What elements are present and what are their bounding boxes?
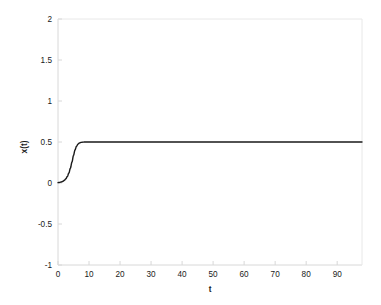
x-tick-label: 0	[56, 270, 61, 279]
y-tick-label: -1	[45, 261, 53, 270]
x-tick-label: 90	[333, 270, 343, 279]
x-tick-label: 20	[115, 270, 125, 279]
y-tick-label: 2	[47, 15, 52, 24]
x-tick-label: 40	[178, 270, 188, 279]
x-axis-label: t	[209, 285, 212, 294]
x-tick-label: 50	[209, 270, 219, 279]
y-tick-label: 1	[47, 97, 52, 106]
plot-canvas: 0102030405060708090-1-0.500.511.52 t x(t…	[0, 0, 381, 305]
x-tick-label: 70	[271, 270, 281, 279]
y-tick-label: 0.5	[41, 138, 53, 147]
y-tick-label: 1.5	[41, 56, 53, 65]
x-tick-label: 60	[240, 270, 250, 279]
y-tick-label: 0	[47, 179, 52, 188]
chart-figure: 0102030405060708090-1-0.500.511.52 t x(t…	[0, 0, 381, 305]
x-tick-label: 30	[147, 270, 157, 279]
x-tick-label: 80	[302, 270, 312, 279]
x-tick-label: 10	[84, 270, 94, 279]
y-tick-label: -0.5	[38, 220, 53, 229]
y-axis-label: x(t)	[20, 140, 29, 153]
